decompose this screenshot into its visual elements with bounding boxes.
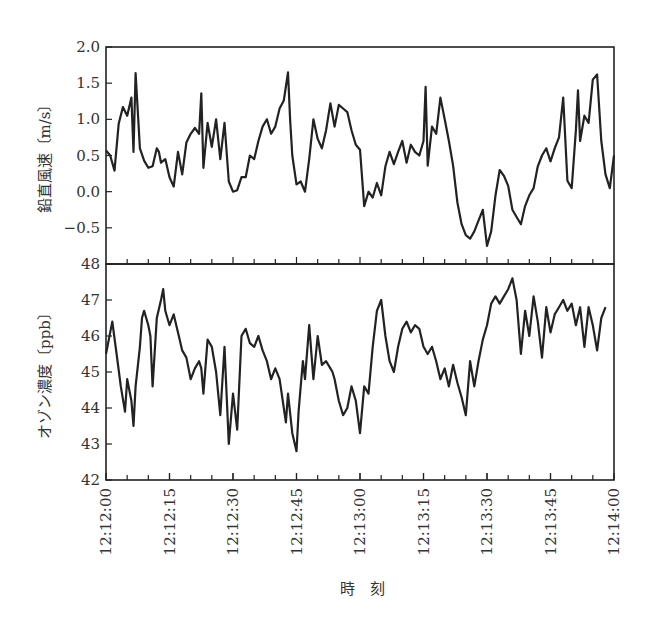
y-tick-label: −0.5 [64, 219, 100, 237]
bottom-panel: 42434445464748 [81, 255, 614, 489]
top-y-axis-label: 鉛直風速〔m/s〕 [36, 97, 54, 214]
x-tick-label: 12:14:00 [605, 488, 623, 555]
bottom-y-axis-label: オゾン濃度〔ppb〕 [36, 305, 54, 439]
x-tick-label: 12:13:15 [415, 488, 433, 555]
y-tick-label: 2.0 [76, 38, 100, 56]
y-tick-label: 43 [81, 435, 100, 453]
y-tick-label: 44 [81, 399, 100, 417]
y-tick-label: 0.5 [76, 147, 100, 165]
x-tick-label: 12:13:30 [478, 488, 496, 555]
x-axis-label: 時 刻 [340, 580, 385, 598]
y-tick-label: 1.0 [76, 110, 100, 128]
y-tick-label: 0.0 [76, 183, 100, 201]
x-tick-label: 12:12:30 [224, 488, 242, 555]
y-tick-label: 42 [81, 471, 100, 489]
x-tick-label: 12:12:45 [288, 488, 306, 555]
x-axis: 12:12:0012:12:1512:12:3012:12:4512:13:00… [97, 473, 623, 555]
x-tick-label: 12:12:00 [97, 488, 115, 555]
x-tick-label: 12:12:15 [161, 488, 179, 555]
y-tick-label: 47 [81, 291, 100, 309]
y-tick-label: 48 [81, 255, 100, 273]
y-tick-label: 46 [81, 327, 100, 345]
series-line-ozone_concentration [106, 278, 606, 451]
x-tick-label: 12:13:45 [542, 488, 560, 555]
chart: −0.50.00.51.01.52.0 42434445464748 12:12… [0, 0, 650, 622]
top-panel: −0.50.00.51.01.52.0 [64, 38, 614, 264]
x-tick-label: 12:13:00 [351, 488, 369, 555]
series-line-vertical_wind_speed [106, 72, 614, 246]
plot-frame [106, 264, 614, 480]
y-tick-label: 1.5 [76, 74, 100, 92]
y-tick-label: 45 [81, 363, 100, 381]
